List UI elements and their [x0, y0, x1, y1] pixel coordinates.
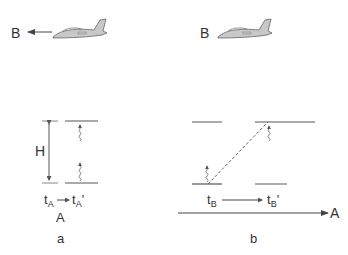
time-prime: ' — [277, 192, 279, 207]
observer-label-a: B — [11, 26, 20, 40]
light-path-dashed — [208, 122, 268, 184]
diagram-canvas — [0, 0, 348, 255]
plane-icon-a — [53, 19, 107, 38]
panel-label-b: b — [250, 232, 257, 245]
panel-label-a: a — [57, 232, 64, 245]
height-label: H — [35, 144, 45, 158]
energy-levels-b — [192, 122, 315, 184]
plane-icon-b — [218, 19, 272, 38]
observer-label-b: B — [200, 26, 209, 40]
energy-levels-a — [42, 121, 98, 183]
photon-wiggle-icon-a — [79, 125, 81, 181]
time-sub: A — [48, 199, 54, 209]
time-end-b: tB' — [267, 193, 279, 209]
motion-label-b: A — [330, 206, 339, 220]
time-start-b: tB — [207, 193, 217, 209]
time-end-a: tA' — [72, 193, 84, 209]
time-prime: ' — [82, 192, 84, 207]
photon-wiggle-icon-b — [206, 126, 270, 182]
time-sub: B — [211, 199, 217, 209]
time-start-a: tA — [44, 193, 54, 209]
frame-label-a: A — [56, 211, 65, 224]
